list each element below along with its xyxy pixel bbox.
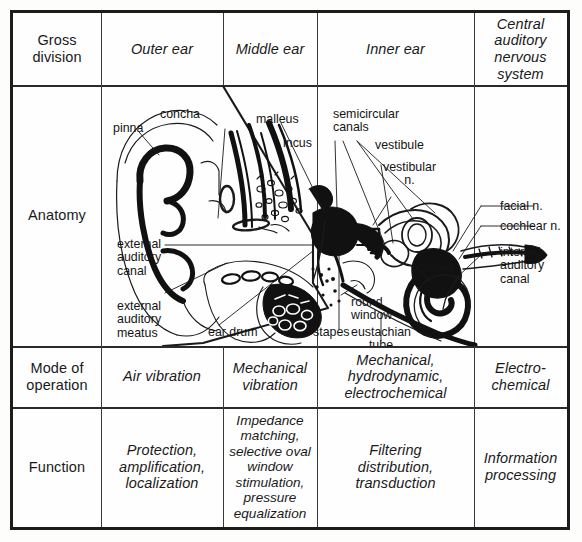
cell-function-central-auditory: Information processing <box>474 407 567 527</box>
row-label-mode-of-operation: Mode of operation <box>13 346 101 407</box>
cell-gross-middle-ear: Middle ear <box>223 13 317 85</box>
cell-gross-outer-ear: Outer ear <box>101 13 223 85</box>
row-label-function: Function <box>13 407 101 527</box>
label-external-auditory-canal: external auditory canal <box>117 238 161 278</box>
label-external-auditory-meatus: external auditory meatus <box>117 300 161 340</box>
label-cochlear-n: cochlear n. <box>500 220 561 233</box>
label-ear-drum: ear drum <box>208 326 258 339</box>
label-round-window: round window <box>351 296 392 323</box>
label-internal-auditory-canal: internal auditory canal <box>500 246 544 286</box>
label-semicircular-canals: semicircular canals <box>333 108 399 135</box>
label-vestibular-n: vestibular n. <box>383 161 436 188</box>
cell-function-outer-ear: Protection, amplification, localization <box>101 407 223 527</box>
cell-mode-central-auditory: Electro- chemical <box>474 346 567 407</box>
label-stapes: stapes <box>313 326 350 339</box>
label-concha: concha <box>160 108 200 121</box>
label-pinna: pinna <box>113 122 143 135</box>
cell-function-inner-ear: Filtering distribution, transduction <box>317 407 474 527</box>
cell-mode-inner-ear: Mechanical, hydrodynamic, electrochemica… <box>317 346 474 407</box>
cell-mode-outer-ear: Air vibration <box>101 346 223 407</box>
row-label-gross-division: Gross division <box>13 13 101 85</box>
label-vestibule: vestibule <box>375 139 424 152</box>
label-cochlea: cochlea <box>411 261 454 274</box>
cell-gross-inner-ear: Inner ear <box>317 13 474 85</box>
label-facial-n: facial n. <box>500 200 543 213</box>
cell-gross-central-auditory-nervous-system: Central auditory nervous system <box>474 13 567 85</box>
cell-function-middle-ear: Impedance matching, selective oval windo… <box>223 407 317 527</box>
row-label-anatomy: Anatomy <box>13 85 101 346</box>
figure-page: Gross division Outer ear Middle ear Inne… <box>0 0 582 542</box>
label-malleus: malleus <box>256 113 299 126</box>
cell-mode-middle-ear: Mechanical vibration <box>223 346 317 407</box>
label-incus: incus <box>283 137 312 150</box>
ear-anatomy-table: Gross division Outer ear Middle ear Inne… <box>10 10 570 530</box>
